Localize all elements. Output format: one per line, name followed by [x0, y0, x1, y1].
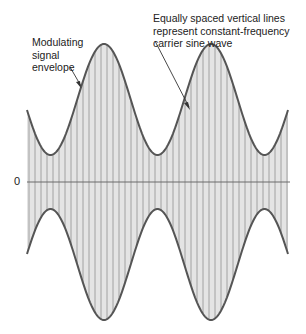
carrier-pointer-arrow — [155, 41, 189, 107]
envelope-label: Modulating signal envelope — [32, 36, 83, 74]
zero-axis-label: 0 — [14, 175, 20, 188]
envelope-arrowhead-icon — [76, 81, 81, 88]
am-modulation-diagram: Modulating signal envelope Equally space… — [0, 0, 306, 334]
carrier-label: Equally spaced vertical lines represent … — [153, 12, 290, 50]
